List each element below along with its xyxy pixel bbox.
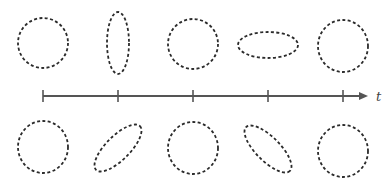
bottom-circle-5 [318,125,368,177]
bottom-circle-1 [18,121,68,173]
top-ellipse-vertical-2 [107,12,129,74]
top-circle-1 [18,18,68,68]
top-circle-3 [168,19,218,69]
time-axis: t [43,89,382,104]
top-circle-5 [318,20,368,72]
bottom-ellipse-tilted-right-2 [88,118,149,179]
bottom-circle-3 [168,122,218,174]
arrow-head-icon [359,92,368,100]
top-ellipse-horizontal-4 [238,32,298,58]
bottom-ellipse-tilted-left-4 [238,119,299,180]
axis-label-t: t [376,89,382,104]
polarization-diagram: t [0,0,390,184]
bottom-row-shapes [18,118,368,180]
top-row-shapes [18,12,368,74]
